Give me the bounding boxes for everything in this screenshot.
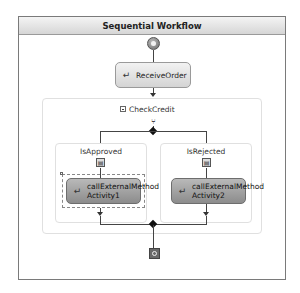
activity-label-line2: Activity2	[192, 191, 225, 200]
arrow-down-icon	[150, 93, 156, 97]
activity-call-external-method-2[interactable]: ↵ callExternalMethod Activity2	[171, 178, 246, 204]
ifelse-icon: ⑂	[148, 117, 158, 126]
call-method-icon: ↵	[178, 187, 187, 196]
workflow-title: Sequential Workflow	[19, 17, 285, 35]
condition-icon: ▤	[202, 158, 211, 167]
container-label: CheckCredit	[129, 105, 175, 114]
connector	[100, 131, 101, 143]
selection-handle[interactable]	[60, 172, 63, 175]
condition-icon: ▤	[96, 158, 105, 167]
activity-label: ReceiveOrder	[136, 71, 187, 80]
workflow-stop-icon	[149, 248, 160, 259]
receive-activity-icon: ↵	[122, 71, 131, 80]
call-method-icon: ↵	[73, 187, 82, 196]
collapse-icon[interactable]	[120, 106, 126, 112]
activity-label-line1: callExternalMethod	[192, 182, 264, 191]
connector	[206, 168, 207, 178]
connector	[206, 131, 207, 143]
activity-call-external-method-1[interactable]: ↵ callExternalMethod Activity1	[66, 178, 141, 204]
workflow-start-icon	[147, 37, 160, 50]
connector	[153, 225, 154, 248]
connector	[100, 131, 207, 132]
activity-label-line2: Activity1	[87, 191, 120, 200]
branch-label: IsRejected	[160, 147, 252, 156]
container-title: CheckCredit	[120, 104, 190, 114]
activity-receive-order[interactable]: ↵ ReceiveOrder	[115, 62, 191, 88]
activity-label-line1: callExternalMethod	[87, 182, 159, 191]
branch-label: IsApproved	[55, 147, 147, 156]
connector	[153, 50, 154, 62]
